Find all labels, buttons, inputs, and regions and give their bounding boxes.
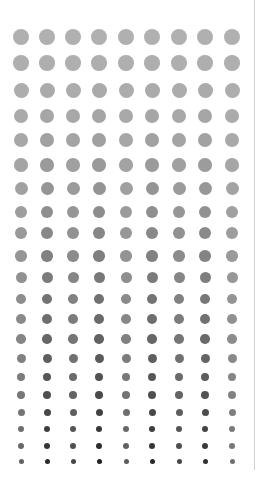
grid-dot bbox=[228, 391, 236, 399]
grid-dot bbox=[66, 83, 81, 98]
grid-dot bbox=[147, 294, 158, 305]
grid-dot bbox=[197, 29, 213, 45]
grid-dot bbox=[227, 272, 238, 283]
grid-dot bbox=[172, 158, 186, 172]
grid-dot bbox=[119, 109, 134, 124]
grid-dot bbox=[65, 55, 81, 71]
grid-dot bbox=[43, 373, 52, 382]
grid-dot bbox=[230, 459, 235, 464]
grid-dot bbox=[200, 294, 211, 305]
grid-dot bbox=[197, 55, 213, 71]
grid-dot bbox=[198, 109, 213, 124]
grid-dot bbox=[15, 206, 28, 219]
grid-dot bbox=[94, 314, 104, 324]
grid-dot bbox=[225, 83, 240, 98]
grid-dot bbox=[44, 409, 51, 416]
grid-dot bbox=[122, 391, 130, 399]
grid-dot bbox=[177, 459, 182, 464]
grid-dot bbox=[175, 354, 184, 363]
grid-dot bbox=[66, 133, 80, 147]
grid-dot bbox=[93, 227, 105, 239]
grid-dot bbox=[119, 83, 134, 98]
grid-dot bbox=[41, 206, 54, 219]
grid-dot bbox=[171, 55, 187, 71]
grid-dot bbox=[94, 334, 104, 344]
grid-dot bbox=[94, 272, 105, 283]
grid-dot bbox=[120, 250, 132, 262]
grid-dot bbox=[226, 206, 239, 219]
grid-dot bbox=[95, 354, 104, 363]
grid-dot bbox=[67, 250, 79, 262]
grid-dot bbox=[147, 334, 157, 344]
grid-dot bbox=[42, 334, 52, 344]
grid-dot bbox=[71, 459, 76, 464]
grid-dot bbox=[40, 109, 55, 124]
grid-dot bbox=[224, 29, 240, 45]
grid-dot bbox=[92, 109, 107, 124]
grid-dot bbox=[225, 109, 240, 124]
grid-dot bbox=[95, 391, 103, 399]
grid-dot bbox=[228, 354, 237, 363]
grid-dot bbox=[149, 426, 156, 433]
grid-dot bbox=[96, 409, 103, 416]
grid-dot bbox=[144, 55, 160, 71]
grid-dot bbox=[145, 109, 160, 124]
grid-dot bbox=[199, 250, 211, 262]
grid-dot bbox=[17, 391, 25, 399]
grid-dot bbox=[225, 158, 239, 172]
grid-dot bbox=[146, 250, 158, 262]
grid-dot bbox=[150, 459, 155, 464]
grid-dot bbox=[226, 250, 238, 262]
grid-dot bbox=[124, 459, 129, 464]
grid-dot bbox=[68, 272, 79, 283]
grid-dot bbox=[149, 409, 156, 416]
grid-dot bbox=[39, 29, 55, 45]
grid-dot bbox=[17, 373, 26, 382]
grid-dot bbox=[93, 206, 106, 219]
grid-dot bbox=[173, 206, 186, 219]
dot-grid bbox=[0, 0, 261, 484]
grid-dot bbox=[68, 314, 78, 324]
grid-dot bbox=[16, 334, 26, 344]
grid-dot bbox=[41, 182, 54, 195]
grid-dot bbox=[199, 227, 211, 239]
grid-dot bbox=[121, 272, 132, 283]
grid-dot bbox=[91, 29, 107, 45]
grid-dot bbox=[45, 459, 50, 464]
grid-dot bbox=[18, 409, 25, 416]
grid-dot bbox=[40, 83, 55, 98]
grid-dot bbox=[123, 443, 129, 449]
grid-dot bbox=[173, 250, 185, 262]
grid-dot bbox=[172, 83, 187, 98]
grid-dot bbox=[227, 294, 238, 305]
grid-dot bbox=[229, 443, 235, 449]
grid-dot bbox=[118, 29, 134, 45]
grid-dot bbox=[227, 334, 237, 344]
grid-dot bbox=[201, 391, 209, 399]
grid-dot bbox=[16, 272, 27, 283]
grid-dot bbox=[174, 294, 185, 305]
grid-dot bbox=[176, 426, 183, 433]
grid-dot bbox=[224, 55, 240, 71]
grid-dot bbox=[14, 109, 29, 124]
grid-dot bbox=[14, 158, 28, 172]
grid-dot bbox=[65, 29, 81, 45]
vertical-divider bbox=[254, 0, 255, 470]
grid-dot bbox=[171, 29, 187, 45]
grid-dot bbox=[121, 294, 132, 305]
grid-dot bbox=[229, 409, 236, 416]
grid-dot bbox=[175, 391, 183, 399]
grid-dot bbox=[92, 158, 106, 172]
grid-dot bbox=[14, 133, 28, 147]
grid-dot bbox=[69, 354, 78, 363]
grid-dot bbox=[228, 373, 237, 382]
grid-dot bbox=[203, 459, 208, 464]
grid-dot bbox=[201, 373, 210, 382]
grid-dot bbox=[202, 426, 209, 433]
grid-dot bbox=[120, 206, 133, 219]
grid-dot bbox=[69, 391, 77, 399]
grid-dot bbox=[201, 354, 210, 363]
grid-dot bbox=[148, 354, 157, 363]
grid-dot bbox=[70, 409, 77, 416]
grid-dot bbox=[93, 250, 105, 262]
